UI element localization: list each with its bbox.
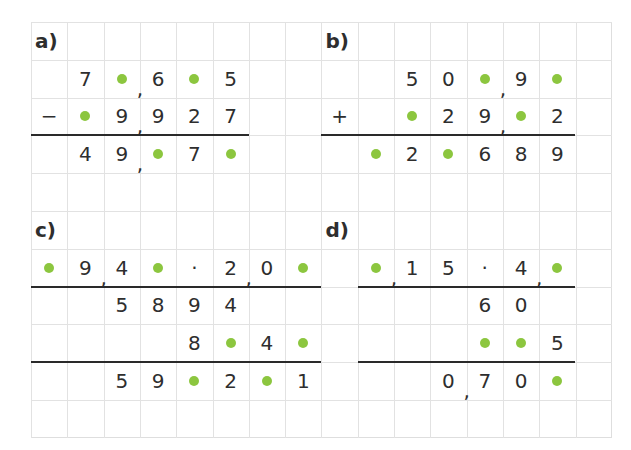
digit: 0 [503,362,539,400]
exercise-label: d) [321,211,357,249]
green-dot-icon [552,376,562,386]
result-line [31,134,249,136]
green-dot-icon [153,263,163,273]
digit: 9 [67,249,103,287]
green-dot-icon [226,338,236,348]
digit: 6 [140,60,176,98]
digit: 9 [467,98,503,136]
blank-digit-slot[interactable] [140,249,176,287]
result-line [31,286,321,288]
digit: 4 [213,287,249,325]
result-line [358,286,576,288]
exercise-label: c) [31,211,67,249]
digit: 5 [539,324,575,362]
digit: 9 [140,98,176,136]
digit: 7 [176,135,212,173]
digit: 4 [503,249,539,287]
blank-digit-slot[interactable] [358,249,394,287]
digit: 9 [104,98,140,136]
grid-hline [31,173,612,174]
digit: 9 [104,135,140,173]
decimal-comma: , [100,268,106,288]
blank-digit-slot[interactable] [176,362,212,400]
digit: 5 [213,60,249,98]
decimal-comma: , [246,268,252,288]
green-dot-icon [189,376,199,386]
digit: 5 [394,60,430,98]
green-dot-icon [480,338,490,348]
green-dot-icon [480,74,490,84]
digit: 0 [503,287,539,325]
decimal-comma: , [500,79,506,99]
digit: 7 [67,60,103,98]
green-dot-icon [153,149,163,159]
green-dot-icon [44,263,54,273]
green-dot-icon [298,263,308,273]
digit: 2 [539,98,575,136]
green-dot-icon [552,263,562,273]
blank-digit-slot[interactable] [140,135,176,173]
digit: 9 [503,60,539,98]
digit: 0 [430,362,466,400]
operator-sign: − [31,98,67,136]
digit: 8 [140,287,176,325]
blank-digit-slot[interactable] [430,135,466,173]
operator-sign: + [321,98,357,136]
blank-digit-slot[interactable] [67,98,103,136]
digit: 4 [104,249,140,287]
digit: 6 [467,135,503,173]
blank-digit-slot[interactable] [539,362,575,400]
exercise-label: a) [31,22,67,60]
result-line [358,361,576,363]
blank-digit-slot[interactable] [467,324,503,362]
digit: 2 [213,362,249,400]
digit: 2 [430,98,466,136]
worksheet-grid: a)765−9927497,,,b)509+2922689,,c)94·2058… [31,22,612,438]
digit: 0 [430,60,466,98]
digit: 2 [176,98,212,136]
blank-digit-slot[interactable] [285,324,321,362]
decimal-comma: , [137,154,143,174]
digit: 9 [176,287,212,325]
blank-digit-slot[interactable] [249,362,285,400]
blank-digit-slot[interactable] [213,135,249,173]
grid-hline [31,400,612,401]
digit: 0 [249,249,285,287]
blank-digit-slot[interactable] [31,249,67,287]
blank-digit-slot[interactable] [213,324,249,362]
blank-digit-slot[interactable] [539,249,575,287]
green-dot-icon [117,74,127,84]
blank-digit-slot[interactable] [503,98,539,136]
digit: 8 [176,324,212,362]
blank-digit-slot[interactable] [176,60,212,98]
operator-sign: · [467,249,503,287]
digit: 1 [394,249,430,287]
blank-digit-slot[interactable] [358,135,394,173]
digit: 9 [539,135,575,173]
green-dot-icon [516,111,526,121]
blank-digit-slot[interactable] [539,60,575,98]
blank-digit-slot[interactable] [104,60,140,98]
blank-digit-slot[interactable] [467,60,503,98]
green-dot-icon [298,338,308,348]
green-dot-icon [552,74,562,84]
blank-digit-slot[interactable] [503,324,539,362]
green-dot-icon [226,149,236,159]
blank-digit-slot[interactable] [285,249,321,287]
digit: 9 [140,362,176,400]
digit: 4 [249,324,285,362]
digit: 2 [394,135,430,173]
green-dot-icon [371,263,381,273]
decimal-comma: , [391,268,397,288]
result-line [31,361,321,363]
decimal-comma: , [463,381,469,401]
digit: 4 [67,135,103,173]
decimal-comma: , [137,116,143,136]
green-dot-icon [189,74,199,84]
operator-sign: · [176,249,212,287]
blank-digit-slot[interactable] [394,98,430,136]
green-dot-icon [262,376,272,386]
green-dot-icon [371,149,381,159]
exercise-label: b) [321,22,357,60]
digit: 8 [503,135,539,173]
